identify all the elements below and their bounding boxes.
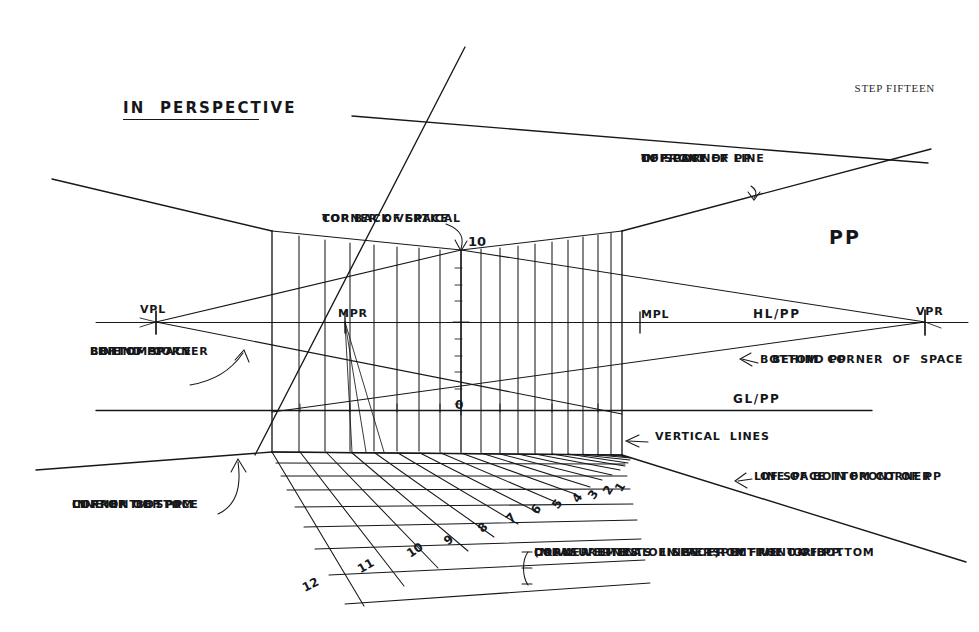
label-vpr: VPR bbox=[916, 305, 943, 319]
label-ground-line: GL/PP bbox=[733, 392, 780, 407]
annotation-line: IN FRONT OF PP bbox=[641, 152, 752, 166]
label-mpr: MPR bbox=[338, 307, 368, 321]
mpr-radiating-lines bbox=[345, 322, 384, 452]
label-horizon-line: HL/PP bbox=[753, 307, 801, 322]
title-underline bbox=[123, 119, 259, 120]
floor-grid-transverse bbox=[272, 452, 631, 606]
annotation-line: IN FRONT OF PP bbox=[72, 498, 183, 512]
measuring-line-bottom-value: 0 bbox=[455, 398, 463, 413]
measuring-line-top-value: 10 bbox=[468, 234, 486, 250]
annotation-line: OF SPACE IN FRONT OF PP bbox=[754, 470, 942, 484]
floor-grid-receding bbox=[272, 452, 650, 604]
step-label: STEP FIFTEEN bbox=[855, 82, 935, 94]
annotation-line: CORNER OF SPACE bbox=[322, 212, 449, 226]
instruction-line: CORNER LINES OF SPACE) IN FRONT OF PP. bbox=[534, 546, 843, 560]
page-title-text: IN PERSPECTIVE bbox=[123, 99, 297, 118]
label-picture-plane: PP bbox=[829, 226, 861, 250]
vertical-lines-group bbox=[272, 231, 622, 455]
drawing-sheet: .ink{stroke:#15171a;fill:none;stroke-lin… bbox=[0, 0, 979, 632]
label-vpl: VPL bbox=[140, 303, 166, 317]
vertical-measuring-scale bbox=[453, 252, 469, 415]
annotation-line: BEHIND PP bbox=[90, 345, 165, 359]
label-mpl: MPL bbox=[641, 308, 669, 322]
annotation-line: VERTICAL LINES bbox=[655, 430, 770, 444]
annotation-line: BEHIND PP bbox=[760, 353, 847, 367]
